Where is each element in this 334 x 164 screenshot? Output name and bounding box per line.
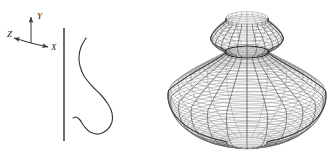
revolved-solid xyxy=(168,12,326,149)
revolved-surface-layer xyxy=(0,0,334,164)
figure-surface-of-revolution: YXZ xyxy=(0,0,334,164)
